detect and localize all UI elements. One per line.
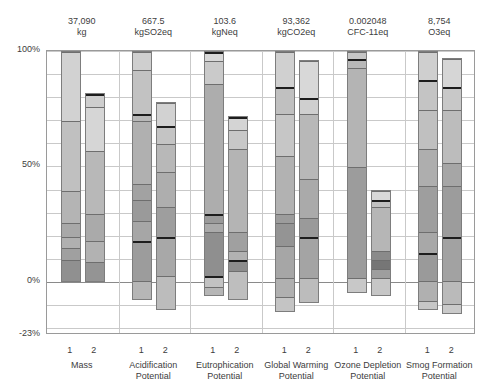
stacked-bar[interactable] xyxy=(275,51,295,312)
gridline xyxy=(47,143,474,144)
bar-segment xyxy=(348,68,366,167)
bar-segment xyxy=(133,52,151,70)
x-series-label: 2 xyxy=(155,345,175,355)
stacked-bar[interactable] xyxy=(299,60,319,302)
bar-segment xyxy=(229,117,247,131)
bar-segment xyxy=(86,262,104,282)
y-tick-label: 100% xyxy=(0,44,40,54)
x-series-label: 1 xyxy=(60,345,80,355)
stacked-bar[interactable] xyxy=(228,116,248,301)
stacked-bar[interactable] xyxy=(347,51,367,293)
bar-segment xyxy=(86,151,104,213)
bar-segment xyxy=(205,84,223,213)
y-tick-label: 0% xyxy=(0,275,40,285)
bar-segment xyxy=(205,52,223,61)
bar-segment xyxy=(229,232,247,250)
total-value: 93,362 xyxy=(261,16,333,27)
bar-segment xyxy=(300,98,318,114)
bar-segment xyxy=(443,186,461,237)
bar-segment xyxy=(443,281,461,304)
bar-segment xyxy=(443,59,461,87)
total-unit: kg xyxy=(46,27,118,38)
bar-segment xyxy=(205,214,223,223)
x-series-label: 2 xyxy=(441,345,461,355)
total-unit: O3eq xyxy=(404,27,476,38)
x-series-label: 2 xyxy=(227,345,247,355)
bar-segment xyxy=(300,114,318,179)
bar-segment xyxy=(205,276,223,288)
x-category-label: Smog FormationPotential xyxy=(392,360,483,382)
stacked-bar[interactable] xyxy=(156,102,176,310)
group-separator xyxy=(119,51,120,333)
bar-segment xyxy=(157,144,175,172)
bar-segment xyxy=(348,59,366,68)
bar-segment xyxy=(443,110,461,163)
stacked-bar[interactable] xyxy=(61,51,81,282)
bar-segment xyxy=(372,251,390,260)
stacked-bar[interactable] xyxy=(132,51,152,300)
group-total-label: 667.5kgSO2eq xyxy=(118,16,190,37)
bar-segment xyxy=(419,281,437,302)
bar-segment xyxy=(276,223,294,246)
bar-segment xyxy=(372,278,390,295)
bar-segment xyxy=(133,70,151,114)
bar-segment xyxy=(419,52,437,80)
total-unit: kgNeq xyxy=(189,27,261,38)
total-value: 667.5 xyxy=(118,16,190,27)
group-total-label: 103.6kgNeq xyxy=(189,16,261,37)
bar-segment xyxy=(276,297,294,312)
gridline xyxy=(47,305,474,306)
gridline xyxy=(47,213,474,214)
bar-segment xyxy=(229,130,247,148)
bar-segment xyxy=(372,269,390,278)
total-value: 37,090 xyxy=(46,16,118,27)
bar-segment xyxy=(133,281,151,301)
stacked-bar[interactable] xyxy=(85,93,105,282)
group-total-label: 37,090kg xyxy=(46,16,118,37)
stacked-bar[interactable] xyxy=(442,58,462,314)
group-total-label: 93,362kgCO2eq xyxy=(261,16,333,37)
bar-segment xyxy=(443,163,461,186)
x-series-label: 1 xyxy=(274,345,294,355)
bar-segment xyxy=(419,186,437,232)
bar-segment xyxy=(276,87,294,115)
group-separator xyxy=(262,51,263,333)
bar-segment xyxy=(133,184,151,200)
gridline-zero xyxy=(47,282,474,283)
group-separator xyxy=(405,51,406,333)
gridline xyxy=(47,259,474,260)
bar-segment xyxy=(229,271,247,300)
bar-segment xyxy=(348,52,366,59)
bar-segment xyxy=(300,237,318,279)
bar-segment xyxy=(205,61,223,84)
stacked-bar[interactable] xyxy=(371,190,391,296)
bar-segment xyxy=(157,207,175,237)
stacked-bar[interactable] xyxy=(418,51,438,310)
total-unit: kgSO2eq xyxy=(118,27,190,38)
bar-segment xyxy=(419,301,437,309)
bar-segment xyxy=(157,237,175,276)
gridline xyxy=(47,74,474,75)
gridline xyxy=(47,166,474,167)
total-unit: kgCO2eq xyxy=(261,27,333,38)
bar-segment xyxy=(62,191,80,223)
bar-segment xyxy=(62,237,80,249)
group-separator xyxy=(333,51,334,333)
y-tick-label: -23% xyxy=(0,328,40,338)
bar-segment xyxy=(133,221,151,242)
x-series-label: 1 xyxy=(203,345,223,355)
bar-segment xyxy=(300,278,318,302)
x-series-label: 2 xyxy=(370,345,390,355)
gridline xyxy=(47,328,474,329)
stacked-bar-chart: 37,090kg667.5kgSO2eq103.6kgNeq93,362kgCO… xyxy=(0,0,483,389)
stacked-bar[interactable] xyxy=(204,51,224,296)
bar-segment xyxy=(133,114,151,121)
bar-segment xyxy=(62,52,80,121)
bar-segment xyxy=(157,172,175,207)
gridline xyxy=(47,97,474,98)
bar-segment xyxy=(419,149,437,186)
bar-segment xyxy=(443,237,461,281)
bar-segment xyxy=(372,200,390,207)
bar-segment xyxy=(372,191,390,200)
bar-segment xyxy=(276,156,294,214)
